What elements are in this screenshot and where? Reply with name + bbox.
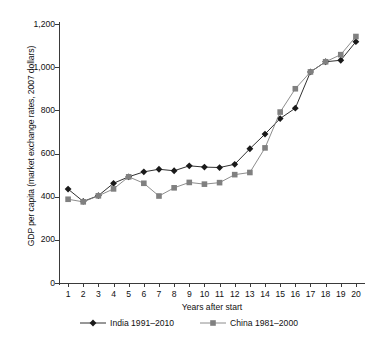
x-tick-mark <box>83 283 84 287</box>
data-point-marker <box>292 105 299 112</box>
x-tick-mark <box>235 283 236 287</box>
y-tick-mark <box>55 154 59 155</box>
data-point-marker <box>353 34 359 40</box>
square-marker-icon <box>200 318 226 328</box>
x-tick-mark <box>189 283 190 287</box>
y-tick: 1,000 <box>12 63 55 72</box>
y-tick-label: 0 <box>15 279 55 288</box>
data-point-marker <box>65 196 71 202</box>
y-tick: 200 <box>12 235 55 244</box>
data-point-marker <box>96 193 102 199</box>
data-point-marker <box>216 164 223 171</box>
x-tick-mark <box>174 283 175 287</box>
data-point-marker <box>277 109 283 115</box>
chart-legend: India 1991–2010China 1981–2000 <box>0 318 378 328</box>
data-point-marker <box>247 170 253 176</box>
data-point-marker <box>201 164 208 171</box>
y-tick-mark <box>55 197 59 198</box>
y-tick-label: 200 <box>15 235 55 244</box>
series-china <box>65 34 358 205</box>
x-tick-mark <box>98 283 99 287</box>
data-point-marker <box>338 52 344 58</box>
data-point-marker <box>125 173 132 180</box>
x-tick-mark <box>341 283 342 287</box>
y-tick-mark <box>55 283 59 284</box>
x-tick-mark <box>68 283 69 287</box>
y-tick: 800 <box>12 106 55 115</box>
x-tick-mark <box>265 283 266 287</box>
y-tick-mark <box>55 240 59 241</box>
data-point-marker <box>353 38 360 45</box>
data-point-marker <box>111 186 117 192</box>
y-tick: 1,200 <box>12 20 55 29</box>
data-point-marker <box>65 186 72 193</box>
data-point-marker <box>186 162 193 169</box>
data-point-marker <box>262 145 268 151</box>
x-tick-mark <box>144 283 145 287</box>
data-point-marker <box>186 180 192 186</box>
data-point-marker <box>308 69 314 75</box>
data-point-marker <box>80 199 86 205</box>
y-tick-label: 1,000 <box>15 63 55 72</box>
legend-entry-india[interactable]: India 1991–2010 <box>80 318 174 328</box>
data-point-marker <box>141 180 147 186</box>
y-tick-mark <box>55 24 59 25</box>
x-tick-mark <box>204 283 205 287</box>
x-tick-mark <box>326 283 327 287</box>
x-tick-mark <box>114 283 115 287</box>
y-tick-label: 400 <box>15 192 55 201</box>
legend-entry-china[interactable]: China 1981–2000 <box>200 318 298 328</box>
data-point-marker <box>171 167 178 174</box>
data-point-marker <box>95 192 102 199</box>
data-point-marker <box>231 161 238 168</box>
y-tick-mark <box>55 110 59 111</box>
x-tick-mark <box>250 283 251 287</box>
data-point-marker <box>232 172 238 178</box>
y-tick-mark <box>55 67 59 68</box>
x-axis-line <box>59 283 365 284</box>
data-point-marker <box>171 185 177 191</box>
series-line <box>68 42 356 202</box>
data-point-marker <box>323 59 329 65</box>
x-tick-mark <box>295 283 296 287</box>
data-point-marker <box>140 168 147 175</box>
data-point-marker <box>202 181 208 187</box>
y-tick: 400 <box>12 192 55 201</box>
data-point-marker <box>217 180 223 186</box>
x-tick-mark <box>159 283 160 287</box>
data-point-marker <box>277 115 284 122</box>
data-point-marker <box>156 193 162 199</box>
x-axis-title: Years after start <box>59 302 365 312</box>
x-tick-mark <box>356 283 357 287</box>
x-tick-mark <box>129 283 130 287</box>
data-point-marker <box>307 69 314 76</box>
y-tick: 0 <box>12 279 55 288</box>
data-point-marker <box>337 57 344 64</box>
data-point-marker <box>246 145 253 152</box>
y-tick: 600 <box>12 149 55 158</box>
diamond-marker-icon <box>80 318 106 328</box>
x-tick-mark <box>310 283 311 287</box>
x-tick-mark <box>280 283 281 287</box>
series-india <box>65 38 360 205</box>
legend-label: China 1981–2000 <box>230 318 298 328</box>
y-tick-label: 1,200 <box>15 20 55 29</box>
x-tick-label: 20 <box>346 289 366 299</box>
y-tick-label: 600 <box>15 149 55 158</box>
x-tick-mark <box>220 283 221 287</box>
data-point-marker <box>156 166 163 173</box>
chart-figure: GDP per capita (market exchange rates, 2… <box>0 0 378 344</box>
y-axis-line <box>59 22 60 285</box>
data-point-marker <box>110 180 117 187</box>
data-point-marker <box>322 58 329 65</box>
legend-label: India 1991–2010 <box>110 318 174 328</box>
y-tick-label: 800 <box>15 106 55 115</box>
data-point-marker <box>80 198 87 205</box>
data-point-marker <box>293 86 299 92</box>
data-point-marker <box>262 131 269 138</box>
data-point-marker <box>126 174 132 180</box>
series-line <box>68 37 356 202</box>
